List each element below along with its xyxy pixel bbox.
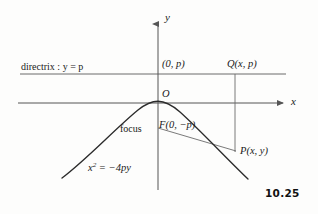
- parabola-equation: x2 = −4py: [88, 163, 131, 174]
- equation-rest: = −4py: [96, 162, 131, 173]
- parabola-figure: y x O directrix : y = p (0, p) Q(x, p) f…: [0, 0, 318, 214]
- point-Q-label: Q(x, p): [227, 59, 257, 70]
- y-axis-label: y: [165, 12, 170, 23]
- point-F-label: F(0, −p): [159, 120, 195, 131]
- figure-number: 10.25: [265, 187, 300, 199]
- x-axis-label: x: [291, 96, 296, 107]
- focus-label: focus: [120, 124, 142, 134]
- segment-FP: [158, 128, 236, 151]
- origin-label: O: [162, 89, 170, 100]
- figure-canvas: [0, 0, 318, 214]
- directrix-label: directrix : y = p: [21, 62, 83, 72]
- point-0p-label: (0, p): [162, 59, 185, 70]
- point-P-label: P(x, y): [240, 146, 268, 157]
